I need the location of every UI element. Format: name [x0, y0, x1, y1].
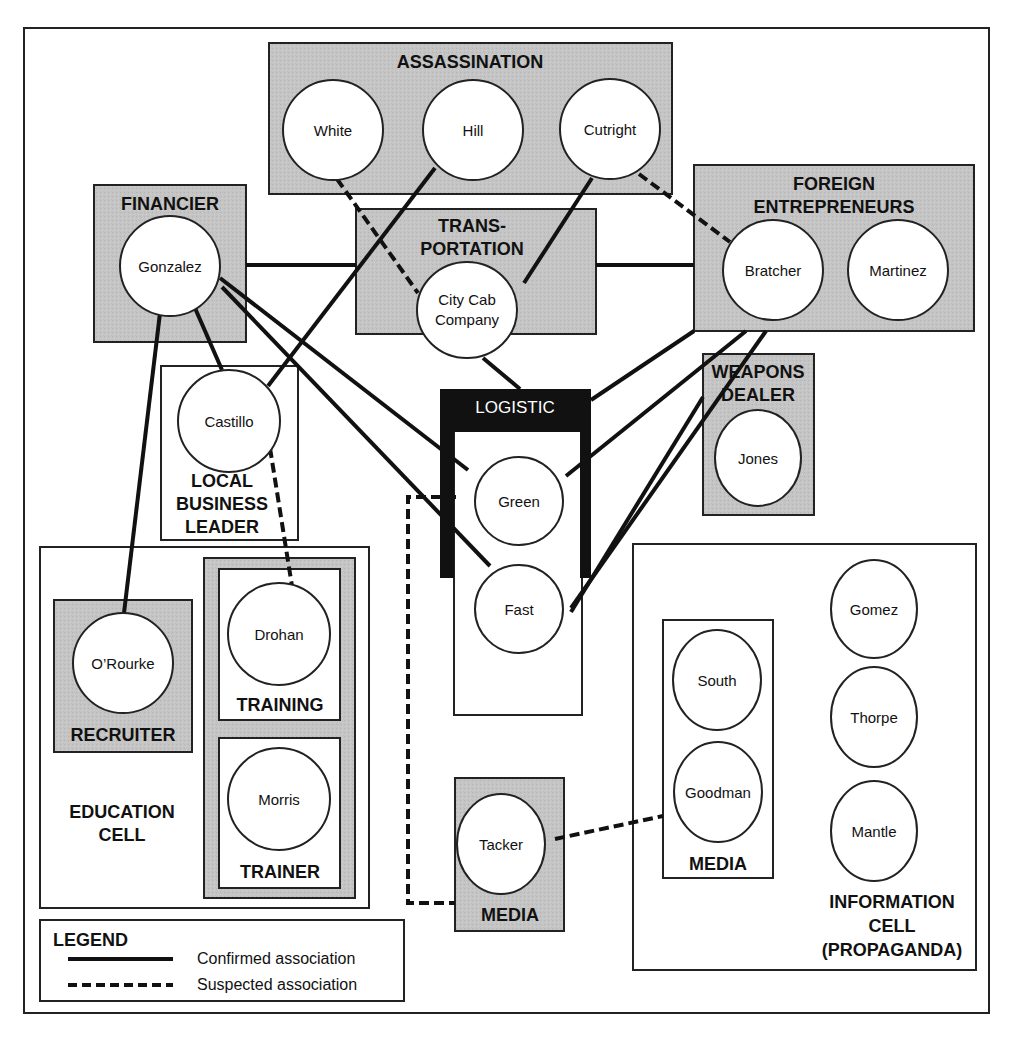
node-label-hill: Hill	[463, 122, 484, 139]
group-label-media-inner: MEDIA	[689, 854, 747, 874]
node-label-morris: Morris	[258, 791, 300, 808]
node-hill[interactable]: Hill	[423, 80, 523, 180]
node-south[interactable]: South	[673, 630, 761, 730]
legend-suspected-label: Suspected association	[197, 976, 357, 993]
group-label-media-tacker: MEDIA	[481, 905, 539, 925]
node-morris[interactable]: Morris	[228, 748, 330, 850]
group-label-transportation-2: PORTATION	[420, 239, 523, 259]
group-label-logistic: LOGISTIC	[475, 398, 554, 417]
group-label-transportation-1: TRANS-	[438, 216, 506, 236]
group-label-education-2: CELL	[99, 825, 146, 845]
group-label-education-1: EDUCATION	[69, 802, 175, 822]
node-fast[interactable]: Fast	[475, 565, 563, 653]
group-label-local-2: BUSINESS	[176, 494, 268, 514]
node-white[interactable]: White	[283, 80, 383, 180]
node-gomez[interactable]: Gomez	[831, 560, 917, 658]
node-jones[interactable]: Jones	[715, 410, 801, 506]
node-city-cab-company[interactable]: City Cab Company	[417, 262, 517, 358]
node-goodman[interactable]: Goodman	[674, 742, 762, 842]
group-label-training: TRAINING	[237, 695, 324, 715]
group-label-local-3: LEADER	[185, 517, 259, 537]
node-thorpe[interactable]: Thorpe	[831, 667, 917, 767]
node-label-city-cab-2: Company	[435, 311, 500, 328]
node-tacker[interactable]: Tacker	[457, 794, 545, 894]
node-gonzalez[interactable]: Gonzalez	[120, 216, 220, 316]
group-label-local-1: LOCAL	[191, 471, 253, 491]
node-label-white: White	[314, 122, 352, 139]
node-label-drohan: Drohan	[254, 626, 303, 643]
node-label-castillo: Castillo	[204, 413, 253, 430]
node-label-fast: Fast	[504, 601, 534, 618]
legend-title: LEGEND	[53, 930, 128, 950]
node-label-mantle: Mantle	[851, 823, 896, 840]
node-cutright[interactable]: Cutright	[560, 79, 660, 179]
group-label-recruiter: RECRUITER	[70, 725, 175, 745]
node-label-city-cab-1: City Cab	[438, 291, 496, 308]
group-label-foreign-2: ENTREPRENEURS	[753, 197, 914, 217]
node-label-jones: Jones	[738, 450, 778, 467]
node-bratcher[interactable]: Bratcher	[723, 220, 823, 320]
node-martinez[interactable]: Martinez	[848, 220, 948, 320]
legend: LEGEND Confirmed association Suspected a…	[40, 920, 404, 1001]
group-label-information-1: INFORMATION	[829, 892, 955, 912]
node-drohan[interactable]: Drohan	[228, 583, 330, 685]
node-label-gomez: Gomez	[850, 601, 898, 618]
node-label-thorpe: Thorpe	[850, 709, 898, 726]
node-green[interactable]: Green	[475, 457, 563, 545]
group-label-trainer: TRAINER	[240, 862, 320, 882]
node-label-goodman: Goodman	[685, 784, 751, 801]
group-label-weapons-1: WEAPONS	[711, 362, 804, 382]
group-label-financier: FINANCIER	[121, 194, 219, 214]
node-castillo[interactable]: Castillo	[178, 370, 280, 472]
node-label-south: South	[697, 672, 736, 689]
node-label-cutright: Cutright	[584, 121, 637, 138]
association-diagram: ASSASSINATION FINANCIER TRANS- PORTATION…	[0, 0, 1016, 1039]
node-label-gonzalez: Gonzalez	[138, 258, 201, 275]
node-label-green: Green	[498, 493, 540, 510]
group-label-weapons-2: DEALER	[721, 385, 795, 405]
group-label-foreign-1: FOREIGN	[793, 174, 875, 194]
node-label-bratcher: Bratcher	[745, 262, 802, 279]
group-label-information-3: (PROPAGANDA)	[822, 940, 963, 960]
group-logistic: LOGISTIC	[440, 389, 591, 715]
node-label-martinez: Martinez	[869, 262, 927, 279]
node-label-tacker: Tacker	[479, 836, 523, 853]
node-orourke[interactable]: O’Rourke	[73, 613, 173, 713]
node-label-orourke: O’Rourke	[91, 655, 154, 672]
node-mantle[interactable]: Mantle	[831, 781, 917, 881]
group-label-assassination: ASSASSINATION	[397, 52, 544, 72]
legend-confirmed-label: Confirmed association	[197, 950, 355, 967]
group-label-information-2: CELL	[869, 916, 916, 936]
